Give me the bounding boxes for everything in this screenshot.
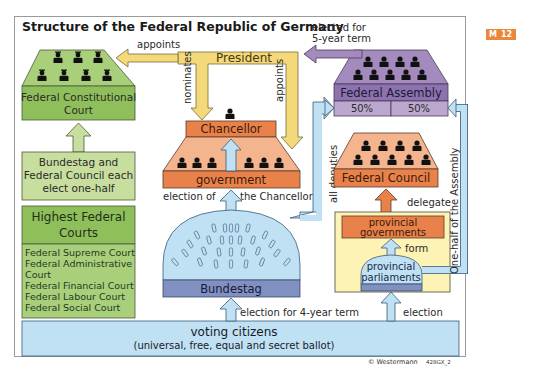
voting-citizens-label: voting citizens (190, 325, 277, 339)
arrow-up-icon (220, 298, 242, 321)
provincial-governments: provincial governments (342, 216, 444, 238)
bundestag: Bundestag (163, 210, 300, 297)
court-election-line-2: Federal Council each (24, 169, 133, 181)
copyright-label: © Westermann (368, 358, 418, 366)
provincial-parliaments-label-2: parliaments (361, 272, 421, 283)
diagram-title: Structure of the Federal Republic of Ger… (22, 19, 344, 34)
highest-courts-title-2: Courts (59, 226, 98, 240)
elected-label-1: elected for (312, 22, 367, 33)
structure-diagram: Structure of the Federal Republic of Ger… (0, 0, 540, 371)
government-label: government (196, 173, 267, 187)
voting-citizens: voting citizens (universal, free, equal … (22, 321, 459, 356)
chancellor-label: Chancellor (200, 122, 261, 136)
nominates-label: nominates (182, 51, 193, 104)
arrow-left-icon (448, 99, 456, 117)
election-label: election (403, 307, 443, 318)
assembly-split-right: 50% (408, 103, 430, 114)
federal-council-label: Federal Council (342, 171, 430, 185)
bundestag-label: Bundestag (200, 282, 262, 296)
constitutional-court-label-1: Federal Constitutional (21, 91, 136, 103)
court-election-line-3: elect one-half (42, 182, 114, 194)
federal-council: Federal Council (334, 133, 438, 187)
provincial-parliaments: provincial parliaments (361, 255, 422, 291)
one-half-assembly-label: One-half of the Assembly (449, 147, 460, 274)
appoints-government-label: appoints (274, 59, 285, 102)
appoints-court-label: appoints (137, 39, 180, 50)
provincial-governments-label-2: governments (360, 227, 426, 238)
election-of-label: election of (163, 191, 216, 202)
court-item: Federal Financial Court (25, 280, 134, 291)
election-4yr-label: election for 4-year term (240, 307, 359, 318)
constitutional-court-label-2: Court (64, 104, 93, 116)
president-label: President (216, 51, 272, 65)
figure-code: 428GX_2 (426, 359, 451, 366)
delegate-label: delegate (407, 197, 451, 208)
arrow-up-icon (381, 292, 401, 321)
assembly-split-left: 50% (351, 103, 373, 114)
court-item: Federal Social Court (25, 302, 121, 313)
arrow-up-icon (66, 123, 91, 152)
court-item: Federal Supreme Court (25, 247, 135, 258)
court-election-line-1: Bundestag and (39, 156, 118, 168)
highest-courts-title-1: Highest Federal (32, 210, 126, 224)
court-item: Federal Labour Court (25, 291, 125, 302)
highest-federal-courts: Highest Federal Courts Federal Supreme C… (22, 206, 135, 318)
form-label: form (405, 243, 428, 254)
court-election-box: Bundestag and Federal Council each elect… (22, 152, 135, 200)
elected-label-2: 5-year term (312, 33, 371, 44)
the-chancellor-label: the Chancellor (240, 191, 314, 202)
provincial-parliaments-label-1: provincial (367, 261, 416, 272)
federal-assembly-label: Federal Assembly (340, 86, 442, 100)
voting-citizens-sub: (universal, free, equal and secret ballo… (134, 340, 335, 351)
federal-assembly: Federal Assembly 50% 50% (334, 50, 448, 116)
court-item: Court (25, 269, 51, 280)
court-item: Federal Administrative (25, 258, 132, 269)
